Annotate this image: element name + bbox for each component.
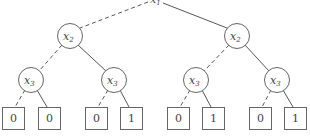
node-x2-left: x2: [58, 24, 83, 49]
edge-x2a-to-x3a: [39, 45, 62, 71]
edge-x2b-to-x3c: [204, 45, 229, 71]
decision-tree-diagram: x1 x2 x2 x3 x3 x3 x3 0 0 0 1: [0, 0, 310, 137]
leaf-2: 0: [39, 108, 61, 130]
edge-x3b-to-leaf4: [120, 90, 129, 107]
leaf-3: 0: [86, 108, 108, 130]
node-x3-3: x3: [184, 68, 209, 93]
svg-text:1: 1: [210, 112, 217, 125]
edge-x3d-to-leaf7: [262, 90, 271, 107]
svg-text:0: 0: [46, 112, 53, 125]
leaf-8: 1: [285, 108, 307, 130]
edge-x2a-to-x3b: [78, 45, 106, 71]
leaf-4: 1: [121, 108, 143, 130]
edge-x3a-to-leaf2: [37, 90, 47, 107]
node-x3-1: x3: [19, 68, 44, 93]
edge-x3d-to-leaf8: [283, 90, 293, 107]
edge-x3a-to-leaf1: [15, 90, 25, 107]
edge-x3c-to-leaf5: [180, 90, 190, 107]
edge-x3c-to-leaf6: [202, 90, 211, 107]
leaf-5: 0: [168, 108, 190, 130]
leaf-6: 1: [203, 108, 225, 130]
node-x3-4: x3: [265, 68, 290, 93]
edge-root-to-right-x2: [163, 3, 227, 28]
root-node: x1: [150, 0, 161, 7]
edge-root-to-left-x2: [80, 2, 148, 28]
svg-text:1: 1: [128, 112, 135, 125]
svg-text:0: 0: [93, 112, 100, 125]
edge-x2b-to-x3d: [245, 45, 269, 71]
svg-text:1: 1: [292, 112, 299, 125]
edge-x3b-to-leaf3: [98, 90, 108, 107]
node-x3-2: x3: [102, 68, 127, 93]
svg-text:0: 0: [257, 112, 264, 125]
node-x2-right: x2: [225, 24, 250, 49]
leaf-1: 0: [3, 108, 25, 130]
leaf-7: 0: [250, 108, 272, 130]
svg-text:x1: x1: [150, 0, 161, 7]
svg-text:0: 0: [175, 112, 182, 125]
svg-text:0: 0: [10, 112, 17, 125]
